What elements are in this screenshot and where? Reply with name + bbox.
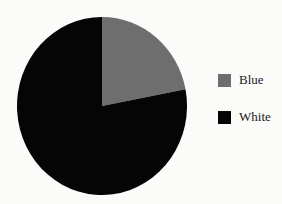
legend-label-blue: Blue bbox=[239, 72, 264, 88]
legend-item-blue: Blue bbox=[218, 72, 271, 88]
legend: Blue White bbox=[218, 72, 271, 146]
legend-item-white: White bbox=[218, 109, 271, 125]
legend-label-white: White bbox=[239, 109, 271, 125]
legend-swatch-blue bbox=[218, 74, 231, 87]
legend-swatch-white bbox=[218, 111, 231, 124]
